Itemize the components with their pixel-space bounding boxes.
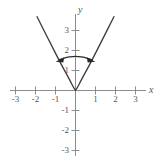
x-tick-label--2: -2 [28, 95, 43, 104]
parabola-figure: -3 -2 -1 1 2 3 3 2 1 -1 -2 -3 x y [0, 0, 162, 164]
x-tick-label--1: -1 [48, 95, 63, 104]
y-tick-label-3: 3 [56, 26, 69, 35]
y-tick-label--3: -3 [52, 146, 69, 155]
x-tick-label-1: 1 [90, 95, 101, 104]
y-tick-label-1: 1 [56, 66, 69, 75]
x-tick-label-2: 2 [110, 95, 121, 104]
x-tick-label--3: -3 [8, 95, 23, 104]
x-axis-label: x [149, 85, 153, 95]
y-tick-label--2: -2 [52, 126, 69, 135]
arrow-head-right [87, 57, 96, 62]
arrow-head-left [56, 57, 65, 62]
y-axis-label: y [78, 5, 82, 15]
coordinate-plane [0, 0, 162, 164]
y-tick-label-2: 2 [56, 46, 69, 55]
y-tick-label--1: -1 [52, 106, 69, 115]
x-tick-label-3: 3 [130, 95, 141, 104]
